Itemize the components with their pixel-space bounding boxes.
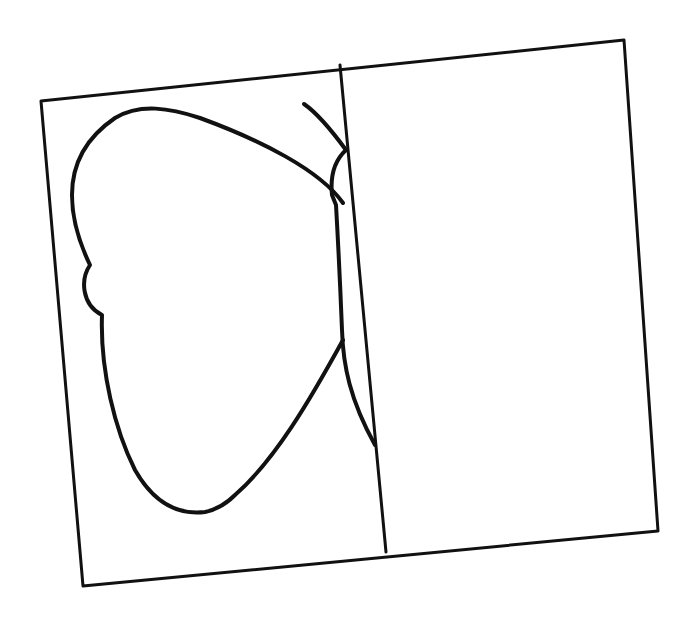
drawing-canvas <box>0 0 699 621</box>
half-butterfly <box>72 104 375 513</box>
frame-rectangle <box>41 40 658 586</box>
butterfly-antenna <box>304 104 346 150</box>
butterfly-wing-outline <box>72 109 343 513</box>
symmetry-divider-line <box>340 65 386 552</box>
